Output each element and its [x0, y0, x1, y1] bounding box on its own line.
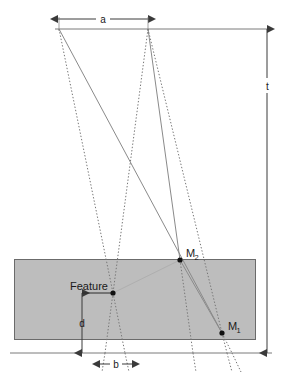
ray-left-to-feature [59, 29, 113, 293]
ray-right-m1-below-baseline [227, 353, 232, 372]
figure-container: a t d b Feature M 2 M 1 [0, 0, 283, 380]
ray-right-to-feature [113, 29, 148, 293]
ray-left-feature-below-baseline [125, 353, 129, 372]
m2-point-marker [177, 257, 182, 262]
feature-label: Feature [70, 280, 108, 292]
m1-label-subscript: 1 [237, 326, 241, 335]
ray-diagram: a t d b Feature M 2 M 1 [0, 0, 283, 380]
dimension-t-label: t [266, 81, 269, 92]
dimension-d-label: d [79, 318, 85, 329]
ray-right-feature-below-baseline [102, 353, 105, 372]
m2-label-subscript: 2 [195, 253, 199, 262]
dimension-a-label: a [100, 14, 106, 25]
ray-right-m2-below-baseline [193, 353, 196, 372]
m1-point-marker [219, 330, 224, 335]
ray-left-m1-below-baseline [232, 353, 241, 372]
feature-point-marker [110, 290, 115, 295]
dimension-b-label: b [113, 359, 119, 370]
